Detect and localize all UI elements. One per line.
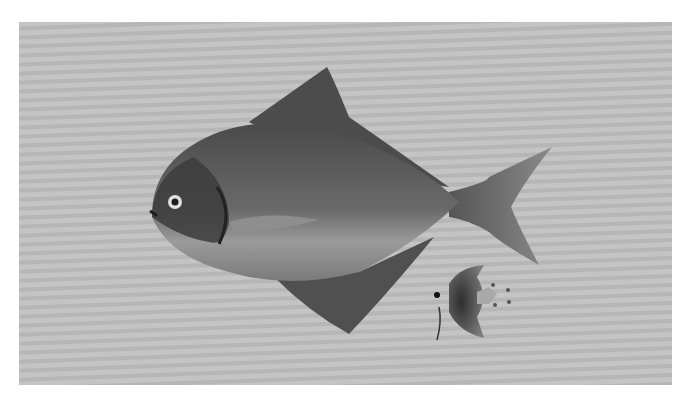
tail-fin bbox=[449, 147, 552, 265]
juvenile-fish bbox=[434, 265, 511, 340]
fish-illustration bbox=[19, 22, 672, 385]
photo-frame bbox=[19, 22, 672, 385]
